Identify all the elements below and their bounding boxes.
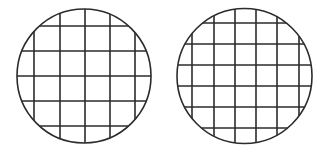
diagram-canvas: [0, 0, 326, 152]
